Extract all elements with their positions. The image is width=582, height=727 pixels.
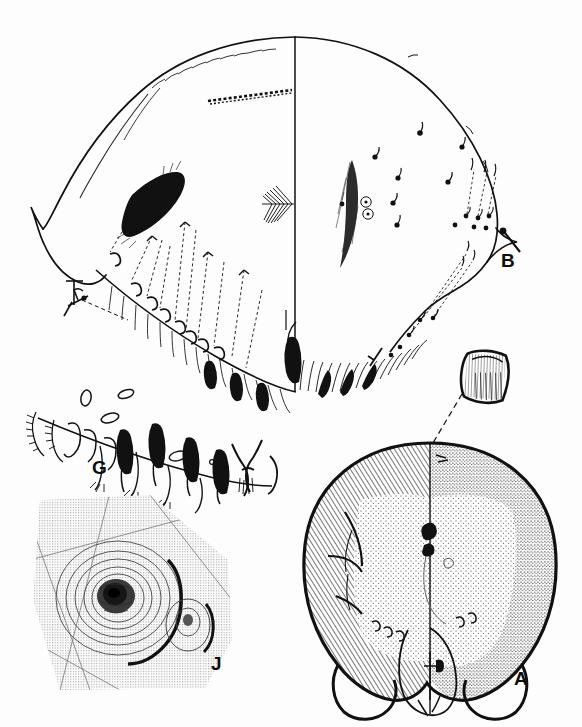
inset-detail-artwork (458, 348, 512, 406)
panel-label-G: G (92, 458, 107, 477)
plate-artwork (0, 0, 582, 727)
panel-label-A: A (514, 669, 528, 688)
illustration-plate: B G J A (0, 0, 582, 727)
panel-label-J: J (211, 654, 222, 673)
panel-label-B: B (501, 251, 515, 270)
